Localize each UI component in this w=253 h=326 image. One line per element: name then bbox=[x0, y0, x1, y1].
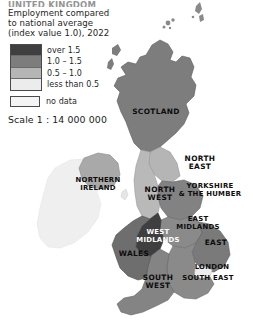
legend-swatch-less-than-0-5 bbox=[11, 79, 41, 90]
legend-color-ramp: over 1.5 1.0 – 1.5 0.5 – 1.0 less than 0… bbox=[10, 44, 42, 92]
legend-swatch-no-data bbox=[10, 96, 40, 107]
legend-item-over-1-5[interactable]: over 1.5 bbox=[11, 45, 41, 56]
legend-swatch-1-0-to-1-5 bbox=[11, 56, 41, 67]
legend-item-no-data[interactable]: no data bbox=[10, 96, 140, 107]
legend-subtitle-line-3: (index value 1.0), 2022 bbox=[8, 29, 140, 39]
legend-item-1-0-to-1-5[interactable]: 1.0 – 1.5 bbox=[11, 56, 41, 67]
legend-label-no-data: no data bbox=[46, 97, 77, 106]
legend-label-less-than-0-5: less than 0.5 bbox=[47, 80, 99, 89]
legend-swatch-0-5-to-1-0 bbox=[11, 68, 41, 79]
legend-subtitle: Employment compared to national average … bbox=[8, 9, 140, 39]
legend-item-less-than-0-5[interactable]: less than 0.5 bbox=[11, 79, 41, 90]
legend-key: over 1.5 1.0 – 1.5 0.5 – 1.0 less than 0… bbox=[10, 44, 140, 107]
legend-panel: UNITED KINGDOM Employment compared to na… bbox=[0, 0, 140, 125]
legend-label-over-1-5: over 1.5 bbox=[47, 46, 81, 55]
map-scale-text: Scale 1 : 14 000 000 bbox=[8, 114, 140, 125]
map-title: UNITED KINGDOM bbox=[8, 0, 140, 7]
legend-label-1-0-to-1-5: 1.0 – 1.5 bbox=[47, 57, 82, 66]
thematic-map-figure: SCOTLAND NORTH EAST NORTH WEST YORKSHIRE… bbox=[0, 0, 253, 326]
legend-swatch-over-1-5 bbox=[11, 45, 41, 56]
legend-label-0-5-to-1-0: 0.5 – 1.0 bbox=[47, 69, 82, 78]
legend-item-0-5-to-1-0[interactable]: 0.5 – 1.0 bbox=[11, 68, 41, 79]
